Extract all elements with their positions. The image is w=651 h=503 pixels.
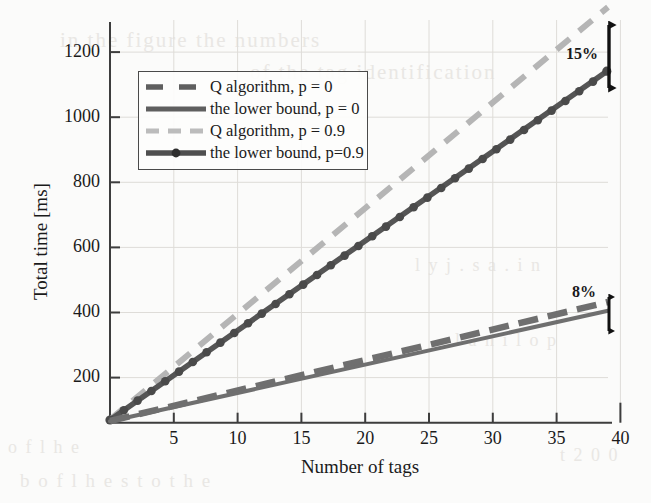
legend-label-q-algorithm-p0: Q algorithm, p = 0 (210, 79, 333, 96)
legend-swatch-solid-dark-marker (145, 145, 207, 161)
x-tick-label-20: 20 (345, 428, 385, 449)
legend-item-lower-bound-p09[interactable]: the lower bound, p=0.9 (145, 142, 361, 164)
legend-item-lower-bound-p0[interactable]: the lower bound, p = 0 (145, 98, 361, 120)
y-tick-label-1000: 1000 (28, 106, 100, 127)
x-tick-marks (174, 403, 621, 423)
annotation-label-8-percent: 8% (572, 283, 596, 301)
annotation-label-15-percent: 15% (566, 45, 598, 63)
series-q-algorithm-p09 (110, 7, 608, 420)
y-tick-label-400: 400 (28, 301, 100, 322)
y-tick-marks (110, 52, 120, 378)
legend: Q algorithm, p = 0 the lower bound, p = … (138, 71, 368, 170)
x-axis-title: Number of tags (250, 456, 470, 478)
legend-item-q-algorithm-p09[interactable]: Q algorithm, p = 0.9 (145, 120, 361, 142)
y-tick-label-200: 200 (28, 366, 100, 387)
x-tick-label-40: 40 (600, 428, 640, 449)
x-tick-label-25: 25 (409, 428, 449, 449)
x-tick-label-15: 15 (281, 428, 321, 449)
legend-label-lower-bound-p09: the lower bound, p=0.9 (210, 145, 364, 162)
x-tick-label-5: 5 (154, 428, 194, 449)
x-tick-label-30: 30 (473, 428, 513, 449)
x-tick-label-35: 35 (537, 428, 577, 449)
legend-swatch-solid-dark-gray (145, 101, 207, 117)
y-tick-label-1200: 1200 (28, 41, 100, 62)
legend-item-q-algorithm-p0[interactable]: Q algorithm, p = 0 (145, 76, 361, 98)
x-tick-label-10: 10 (218, 428, 258, 449)
legend-swatch-dashed-dark-gray (145, 79, 207, 95)
figure-page: in the figure the numbers of the tag ide… (0, 0, 651, 503)
y-axis-title: Total time [ms] (30, 183, 52, 300)
legend-label-q-algorithm-p09: Q algorithm, p = 0.9 (210, 123, 345, 140)
legend-label-lower-bound-p0: the lower bound, p = 0 (210, 101, 360, 118)
legend-swatch-dashed-light-gray (145, 123, 207, 139)
